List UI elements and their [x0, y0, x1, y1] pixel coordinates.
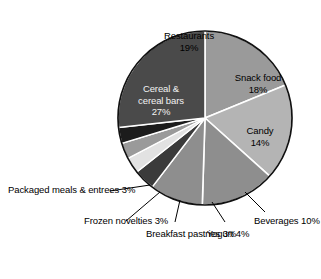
slice-label-snack-food: Snack food 18%: [214, 72, 302, 95]
callout-label-frozen-novelties-line1: Frozen: [84, 215, 113, 226]
slice-label-restaurants-value: 19%: [141, 42, 237, 54]
callout-label-yogurt-value: 4%: [236, 228, 250, 239]
pie-chart: Restaurants 19% Snack food 18% Candy 14%…: [0, 0, 321, 279]
callout-label-frozen-novelties: Frozen novelties 3%: [84, 215, 154, 227]
callout-label-packaged-meals-line2: & entrees: [79, 184, 119, 195]
callout-label-yogurt: Yogurt 4%: [202, 228, 254, 240]
callout-label-frozen-novelties-line2: novelties: [116, 215, 153, 226]
leader-line-breakfast-pastries: [175, 200, 180, 222]
slice-label-candy-value: 14%: [222, 137, 298, 149]
callout-label-packaged-meals-value: 3%: [122, 184, 136, 195]
slice-label-restaurants-name: Restaurants: [164, 30, 214, 41]
callout-label-frozen-novelties-value: 3%: [155, 215, 169, 226]
slice-label-candy-name: Candy: [247, 125, 274, 136]
callout-label-beverages: Beverages 10%: [254, 215, 318, 227]
callout-label-packaged-meals-line1: Packaged meals: [8, 184, 77, 195]
slice-label-cereal-bars-name-1: Cereal &: [143, 83, 179, 94]
callout-label-breakfast-pastries-line1: Breakfast: [146, 228, 185, 239]
leader-line-yogurt: [212, 202, 225, 222]
pie-slices: [118, 31, 292, 205]
callout-label-yogurt-line1: Yogurt: [207, 228, 234, 239]
slice-label-snack-food-name: Snack food: [235, 72, 282, 83]
slice-label-cereal-bars: Cereal & cereal bars 27%: [113, 83, 209, 118]
leader-line-beverages: [245, 192, 265, 212]
slice-label-candy: Candy 14%: [222, 125, 298, 148]
slice-label-restaurants: Restaurants 19%: [141, 30, 237, 53]
callout-label-packaged-meals: Packaged meals & entrees 3%: [8, 184, 108, 196]
callout-label-beverages-value: 10%: [301, 215, 320, 226]
slice-label-cereal-bars-value: 27%: [113, 106, 209, 118]
slice-label-cereal-bars-name-2: cereal bars: [113, 95, 209, 107]
slice-label-snack-food-value: 18%: [214, 84, 302, 96]
callout-label-beverages-line1: Beverages: [254, 215, 299, 226]
